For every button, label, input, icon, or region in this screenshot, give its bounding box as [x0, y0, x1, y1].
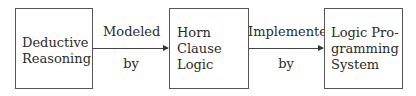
edge-label-top: Modeled [103, 24, 159, 40]
node-label: Deductive Reasoning [22, 35, 91, 67]
edge-label-top: Implemented [248, 24, 324, 40]
node-label: Logic Pro- gramming System [331, 25, 399, 73]
node-horn-clause-logic: Horn Clause Logic [169, 8, 249, 89]
arrow-implemented-by [249, 48, 323, 49]
arrow-modeled-by [93, 48, 168, 49]
edge-label-bottom: by [103, 56, 159, 72]
node-deductive-reasoning: Deductive Reasoning [15, 8, 93, 89]
edge-label-bottom: by [248, 56, 324, 72]
node-logic-programming-system: Logic Pro- gramming System [324, 8, 403, 89]
node-label: Horn Clause Logic [177, 25, 222, 73]
